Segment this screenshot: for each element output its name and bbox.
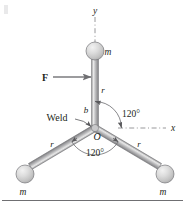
radius-left-label: r bbox=[50, 139, 54, 149]
radius-right-label: r bbox=[137, 139, 141, 149]
mass-left bbox=[16, 165, 34, 183]
mass-top bbox=[86, 42, 104, 60]
angle-upper-arc bbox=[95, 102, 122, 129]
angle-upper-label: 120° bbox=[122, 109, 140, 119]
axis-y-label: y bbox=[92, 6, 98, 16]
axis-x-label: x bbox=[170, 123, 176, 133]
figure-container: y x m m bbox=[0, 0, 185, 208]
b-label: b bbox=[84, 105, 89, 115]
weld-leader-line bbox=[75, 119, 91, 127]
origin-label: O bbox=[93, 131, 100, 142]
figure-diagram: y x m m bbox=[0, 0, 185, 208]
radius-top-label: r bbox=[101, 85, 105, 95]
force-label: F bbox=[42, 72, 48, 83]
scan-artifact bbox=[4, 5, 8, 14]
arm-top bbox=[92, 51, 99, 129]
mass-right bbox=[156, 165, 174, 183]
mass-left-label: m bbox=[20, 187, 27, 197]
weld-label: Weld bbox=[47, 112, 68, 123]
angle-lower-label: 120° bbox=[86, 148, 104, 158]
mass-right-label: m bbox=[160, 187, 167, 197]
mass-top-label: m bbox=[105, 47, 112, 57]
